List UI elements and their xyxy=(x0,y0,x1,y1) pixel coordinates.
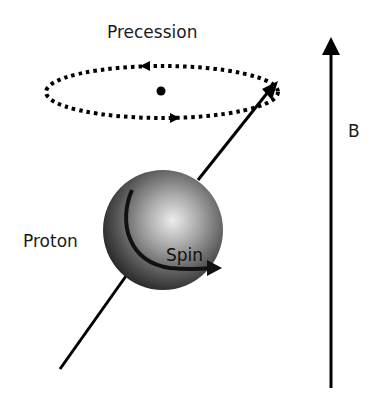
magnetic-field-label: B xyxy=(348,121,360,141)
proton-sphere xyxy=(103,170,223,290)
precession-center-dot xyxy=(157,87,166,96)
orbit-arrow-top-icon xyxy=(140,61,150,71)
spin-axis-upper xyxy=(198,92,268,180)
precession-orbit xyxy=(46,61,278,123)
spin-arrowhead-icon xyxy=(207,260,222,276)
spin-axis-lower xyxy=(60,276,126,369)
precession-label: Precession xyxy=(107,22,197,42)
proton-label: Proton xyxy=(23,231,78,251)
orbit-arrow-bottom-icon xyxy=(170,113,180,123)
field-b-arrowhead-icon xyxy=(322,37,340,55)
diagram-canvas xyxy=(0,0,379,393)
spin-label: Spin xyxy=(166,245,203,265)
